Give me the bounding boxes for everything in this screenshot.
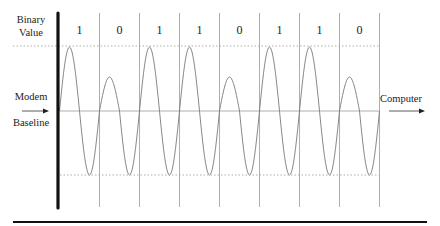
binary-value-label-line1: Binary (17, 14, 46, 25)
bit-value-digit: 1 (277, 23, 283, 37)
baseline-label: Baseline (13, 117, 49, 128)
bit-value-digit: 1 (77, 23, 83, 37)
computer-arrow-icon (389, 109, 425, 114)
bit-value-digit: 0 (357, 23, 363, 37)
bit-value-digit: 1 (197, 23, 203, 37)
modem-arrow-icon (22, 109, 49, 114)
bit-value-digit: 0 (117, 23, 123, 37)
modem-signal-diagram: Binary Value Modem Baseline Computer 101… (0, 0, 440, 226)
bit-value-digit: 1 (317, 23, 323, 37)
bit-value-digit: 0 (237, 23, 243, 37)
modem-label: Modem (15, 91, 48, 102)
computer-label: Computer (380, 93, 422, 104)
bit-value-digit: 1 (157, 23, 163, 37)
binary-value-label-line2: Value (19, 27, 43, 38)
